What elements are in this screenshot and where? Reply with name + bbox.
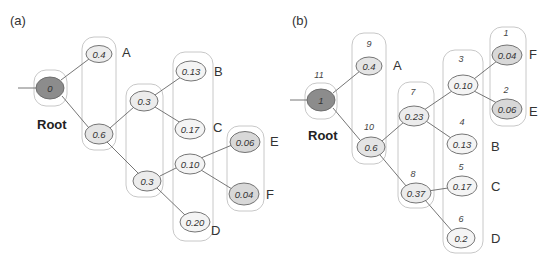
leaf-label-b: B [491,139,500,154]
edge [474,91,497,103]
panel-b-label: (b) [292,13,308,28]
order-number: 4 [459,117,464,127]
edge [474,61,497,79]
svg-text:0.13: 0.13 [182,66,201,77]
svg-text:0.13: 0.13 [453,139,472,150]
tree-node: 0.17 [447,176,477,196]
edge [333,71,360,93]
tree-node-root: 1 [307,89,335,111]
leaf-label-f: F [266,187,274,202]
leaf-label-e: E [270,134,279,149]
order-number: 5 [458,162,464,172]
edge [110,107,134,128]
order-number: 7 [410,87,416,97]
tree-node: 0.13 [176,61,206,81]
tree-node: 0.04 [229,183,259,205]
tree-node: 0.06 [492,99,522,119]
leaf-label-d: D [491,231,500,246]
panel-b: (b) 11 9 10 7 8 3 4 5 6 1 2 1 [290,13,538,253]
order-number: 9 [366,39,371,49]
order-number: 3 [458,54,463,64]
order-number: 10 [364,122,374,132]
tree-node: 0.10 [175,154,205,174]
tree-node: 0.06 [230,132,260,153]
leaf-label-b: B [214,64,223,79]
edge [425,200,452,231]
tree-node: 0.23 [399,106,429,126]
tree-node: 0.13 [447,134,477,154]
edge [424,91,452,110]
edge [426,121,451,138]
order-number: 6 [458,214,463,224]
tree-node: 0.3 [130,91,158,111]
svg-text:0.06: 0.06 [236,137,255,148]
svg-text:0.37: 0.37 [407,188,426,199]
svg-text:0.04: 0.04 [235,189,254,200]
root-label: Root [37,117,67,132]
svg-text:0.17: 0.17 [453,181,472,192]
leaf-label-a: A [122,45,131,60]
svg-text:0.3: 0.3 [140,176,154,187]
svg-text:0: 0 [47,83,53,94]
order-number: 8 [410,169,415,179]
leaf-label-a: A [393,58,402,73]
edge [61,59,89,80]
svg-text:0.20: 0.20 [186,217,205,228]
svg-text:0.3: 0.3 [137,96,151,107]
svg-text:0.04: 0.04 [498,50,517,61]
root-label: Root [308,128,338,143]
tree-node: 0.20 [180,212,210,232]
svg-text:0.23: 0.23 [405,111,424,122]
tree-node: 0.3 [133,171,161,191]
svg-text:0.6: 0.6 [92,129,106,140]
edge [157,188,186,216]
leaf-label-c: C [491,179,500,194]
tree-node-root: 0 [36,77,64,99]
edge [155,107,181,123]
leaf-label-c: C [213,120,222,135]
tree-node: 0.37 [401,183,431,203]
tree-node: 0.04 [492,45,522,65]
tree-node: 0.2 [447,228,475,248]
order-number: 2 [502,85,508,95]
svg-text:0.4: 0.4 [92,49,105,60]
huffman-tree-figure: (a) 0 0.4 0.6 0 [0,0,554,262]
tree-node: 0.6 [357,137,385,157]
edge [155,77,181,95]
tree-node: 0.17 [175,119,205,139]
svg-text:0.06: 0.06 [498,104,517,115]
tree-node: 0.6 [85,124,113,144]
leaf-label-e: E [529,104,538,119]
leaf-label-d: D [211,223,220,238]
edge [380,155,407,187]
svg-text:1: 1 [318,95,323,106]
tree-node: 0.4 [86,46,112,63]
svg-text:0.6: 0.6 [364,142,378,153]
tree-node: 0.4 [356,57,382,75]
edge [107,142,139,174]
tree-node: 0.10 [448,75,478,95]
order-number: 1 [503,28,508,38]
order-number: 11 [314,70,323,80]
svg-text:0.10: 0.10 [181,159,200,170]
svg-text:0.4: 0.4 [362,61,375,72]
leaf-label-f: F [529,47,537,62]
svg-text:0.17: 0.17 [181,124,200,135]
edge [382,122,404,141]
svg-text:0.10: 0.10 [454,80,473,91]
panel-a-label: (a) [10,13,26,28]
svg-text:0.2: 0.2 [454,233,468,244]
panel-a: (a) 0 0.4 0.6 0 [10,13,279,241]
